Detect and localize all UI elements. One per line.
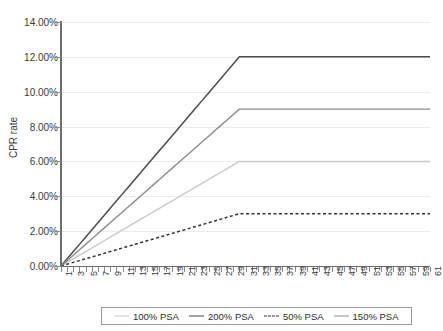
x-axis-tick-label: 33 — [262, 266, 271, 276]
y-axis-tick-label: 12.00% — [18, 51, 58, 62]
y-axis-tick-mark — [55, 57, 61, 58]
x-axis-tick-label: 9 — [114, 271, 123, 276]
legend-item-50-psa[interactable]: 50% PSA — [264, 311, 324, 322]
x-axis-tick-label: 1 — [65, 271, 74, 276]
x-axis-tick-label: 55 — [397, 266, 406, 276]
legend-line-swatch-icon — [334, 312, 349, 320]
chart-legend: 100% PSA200% PSA50% PSA150% PSA — [101, 307, 412, 325]
series-lines — [61, 22, 430, 266]
x-axis-tick-label: 53 — [385, 266, 394, 276]
y-axis-tick-mark — [55, 92, 61, 93]
y-axis-title: CPR rate — [8, 103, 19, 173]
legend-line-swatch-icon — [114, 312, 129, 320]
legend-item-200-psa[interactable]: 200% PSA — [189, 311, 254, 322]
x-axis-tick-label: 29 — [237, 266, 246, 276]
y-axis-tick-mark — [55, 22, 61, 23]
x-axis-tick-label: 57 — [409, 266, 418, 276]
y-axis-tick-label: 4.00% — [18, 191, 58, 202]
x-axis-tick-label: 15 — [151, 266, 160, 276]
y-axis-tick-label: 0.00% — [18, 261, 58, 272]
x-axis-tick-label: 21 — [188, 266, 197, 276]
x-axis-tick-label: 13 — [139, 266, 148, 276]
x-axis-tick-label: 43 — [323, 266, 332, 276]
x-axis-tick-label: 11 — [127, 267, 136, 276]
x-axis-tick-label: 5 — [90, 271, 99, 276]
x-axis-tick-label: 49 — [360, 266, 369, 276]
legend-line-swatch-icon — [189, 312, 204, 320]
legend-item-100-psa[interactable]: 100% PSA — [114, 311, 179, 322]
legend-label: 150% PSA — [353, 311, 399, 322]
x-axis-tick-label: 19 — [176, 266, 185, 276]
x-axis-tick-label: 27 — [225, 266, 234, 276]
y-axis-tick-label: 10.00% — [18, 86, 58, 97]
y-axis-tick-marks — [55, 22, 62, 266]
x-axis-tick-label: 45 — [336, 266, 345, 276]
legend-label: 50% PSA — [283, 311, 324, 322]
y-axis-tick-label: 6.00% — [18, 156, 58, 167]
x-axis-tick-label: 7 — [102, 271, 111, 276]
legend-line-swatch-icon — [264, 312, 279, 320]
y-axis-tick-label: 8.00% — [18, 121, 58, 132]
x-axis-tick-label: 25 — [213, 266, 222, 276]
x-axis-tick-label: 47 — [348, 266, 357, 276]
y-axis-tick-mark — [55, 161, 61, 162]
x-axis-tick-label: 17 — [163, 266, 172, 276]
legend-label: 100% PSA — [133, 311, 179, 322]
x-axis-tick-label: 35 — [274, 266, 283, 276]
x-axis-tick-label: 31 — [250, 266, 259, 276]
series-line-50-psa — [61, 214, 430, 266]
legend-label: 200% PSA — [208, 311, 254, 322]
x-axis-tick-label: 59 — [422, 266, 431, 276]
y-axis-tick-labels: 0.00%2.00%4.00%6.00%8.00%10.00%12.00%14.… — [18, 14, 58, 272]
x-axis-tick-label: 23 — [200, 266, 209, 276]
x-axis-tick-label: 41 — [311, 266, 320, 276]
plot-area — [61, 22, 430, 266]
x-axis-tick-label: 39 — [299, 266, 308, 276]
x-axis-tick-label: 37 — [286, 266, 295, 276]
y-axis-tick-mark — [55, 196, 61, 197]
x-axis-tick-label: 3 — [77, 271, 86, 276]
x-axis-tick-labels: 1357911131517192123252729313335373941434… — [61, 274, 430, 302]
y-axis-tick-label: 2.00% — [18, 226, 58, 237]
y-axis-tick-label: 14.00% — [18, 17, 58, 28]
x-axis-tick-label: 61 — [434, 266, 443, 276]
x-axis-tick-label: 51 — [373, 266, 382, 276]
legend-item-150-psa[interactable]: 150% PSA — [334, 311, 399, 322]
y-axis-tick-mark — [55, 231, 61, 232]
series-line-150-psa — [61, 109, 430, 266]
y-axis-tick-mark — [55, 127, 61, 128]
x-axis-tick-mark — [61, 267, 62, 272]
